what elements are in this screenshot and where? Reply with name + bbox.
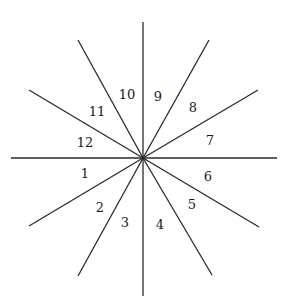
sector-label-3: 3 (121, 215, 129, 230)
sector-label-2: 2 (96, 200, 104, 215)
ray-lower-right-steep (143, 158, 212, 275)
sector-label-6: 6 (204, 169, 212, 184)
sector-diagram: 123456789101112 (0, 0, 291, 307)
sector-label-4: 4 (156, 217, 164, 232)
ray-lines (11, 22, 277, 296)
sector-label-12: 12 (77, 135, 94, 150)
sector-label-7: 7 (206, 133, 214, 148)
sector-label-10: 10 (119, 87, 136, 102)
sector-label-1: 1 (81, 166, 89, 181)
sector-label-5: 5 (188, 197, 196, 212)
sector-label-9: 9 (154, 89, 162, 104)
sector-label-8: 8 (189, 100, 197, 115)
sector-label-11: 11 (89, 104, 106, 119)
